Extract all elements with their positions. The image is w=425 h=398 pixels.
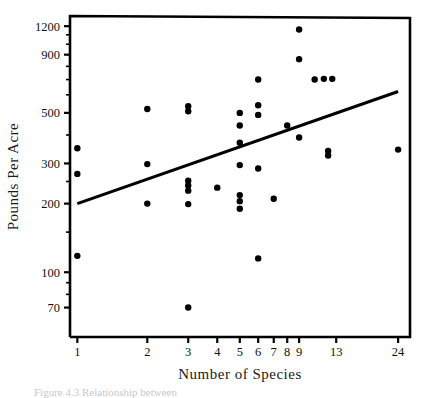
x-axis-title: Number of Species: [178, 366, 301, 382]
x-tick-label: 1: [74, 345, 80, 359]
data-point: [237, 192, 243, 198]
data-point: [237, 198, 243, 204]
x-axis-tick-labels: 1234567891324: [74, 345, 405, 359]
data-point: [311, 76, 317, 82]
y-axis-tick-labels: 701002003005009001200: [35, 20, 60, 315]
x-tick-label: 3: [185, 345, 191, 359]
data-point: [255, 165, 261, 171]
data-point: [237, 110, 243, 116]
data-point: [74, 171, 80, 177]
data-point: [144, 106, 150, 112]
data-point: [255, 112, 261, 118]
x-tick-label: 5: [237, 345, 243, 359]
x-tick-label: 9: [296, 345, 302, 359]
y-tick-label: 300: [41, 157, 60, 171]
x-tick-label: 24: [392, 345, 405, 359]
x-tick-label: 7: [271, 345, 277, 359]
y-tick-label: 100: [41, 266, 60, 280]
x-tick-label: 6: [255, 345, 261, 359]
data-point: [237, 139, 243, 145]
data-point-group: [74, 26, 401, 310]
data-point: [74, 145, 80, 151]
data-point: [237, 162, 243, 168]
data-point: [296, 134, 302, 140]
data-point: [296, 56, 302, 62]
data-point: [214, 184, 220, 190]
plot-frame-path: [70, 16, 410, 337]
x-tick-label: 13: [330, 345, 343, 359]
y-tick-label: 200: [41, 197, 60, 211]
data-point: [144, 161, 150, 167]
data-point: [395, 146, 401, 152]
y-axis-title: Pounds Per Acre: [5, 123, 21, 231]
data-point: [237, 205, 243, 211]
y-tick-label: 1200: [35, 20, 60, 34]
data-point: [271, 196, 277, 202]
data-point: [255, 76, 261, 82]
x-tick-label: 4: [214, 345, 221, 359]
regression-trendline: [77, 92, 398, 204]
y-tick-label: 70: [48, 301, 61, 315]
data-point: [329, 76, 335, 82]
data-point: [284, 122, 290, 128]
plot-frame: [70, 16, 410, 337]
data-point: [321, 76, 327, 82]
data-point: [296, 26, 302, 32]
data-point: [185, 108, 191, 114]
x-tick-label: 2: [144, 345, 150, 359]
data-point: [144, 200, 150, 206]
data-point: [185, 187, 191, 193]
data-point: [185, 201, 191, 207]
figure-container: 701002003005009001200 1234567891324 Poun…: [0, 0, 425, 398]
data-point: [237, 122, 243, 128]
scatter-plot: 701002003005009001200 1234567891324 Poun…: [0, 0, 425, 398]
data-point: [255, 102, 261, 108]
data-point: [255, 255, 261, 261]
x-tick-label: 8: [284, 345, 290, 359]
y-tick-label: 900: [41, 48, 60, 62]
data-point: [185, 304, 191, 310]
y-tick-label: 500: [41, 106, 60, 120]
data-point: [74, 253, 80, 259]
figure-caption: Figure 4.3 Relationship between: [34, 386, 177, 398]
data-point: [325, 152, 331, 158]
